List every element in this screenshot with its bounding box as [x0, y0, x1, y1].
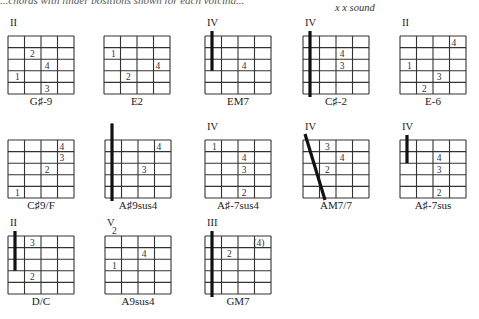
finger-number: 1: [407, 61, 412, 71]
chord-name: A9sus4: [121, 295, 155, 307]
fret-position-label: IV: [305, 121, 316, 132]
fretboard-grid: [303, 140, 369, 198]
finger-number: 1: [15, 72, 20, 82]
fret-position-label: IV: [402, 121, 413, 132]
finger-number: 2: [437, 188, 442, 198]
finger-number: 2: [242, 188, 247, 198]
finger-number: 4: [242, 61, 247, 71]
chord-diagram-board: II2413G♯-9142E2IV4EM7IV43C♯-2II4132E-643…: [0, 0, 479, 319]
finger-number: 1: [112, 261, 117, 271]
fretboard-grid: [8, 236, 74, 294]
chord-name: E-6: [425, 95, 441, 107]
chord-diagram: III(4)2GM7: [205, 217, 271, 307]
fretboard-grid: [303, 36, 369, 94]
finger-number: 4: [142, 249, 147, 259]
fret-position-label: II: [402, 17, 409, 28]
chord-diagram: II32D/C: [8, 217, 74, 307]
finger-number: (4): [253, 238, 264, 249]
finger-number: 4: [242, 153, 247, 163]
chord-name: G♯-9: [30, 95, 53, 107]
finger-number: 4: [340, 153, 345, 163]
chord-diagram: V241A9sus4: [105, 217, 171, 307]
chord-diagram: IV4EM7: [205, 17, 271, 107]
finger-number: 4: [45, 61, 50, 71]
finger-number: 3: [142, 165, 147, 175]
finger-number: 3: [30, 238, 35, 248]
finger-number: 2: [112, 226, 117, 236]
finger-number: 2: [126, 72, 131, 82]
fret-position-label: IV: [207, 17, 218, 28]
chord-name: A♯9sus4: [119, 199, 158, 211]
finger-number: 3: [242, 165, 247, 175]
finger-number: 2: [227, 249, 232, 259]
chord-diagram: 43A♯9sus4: [105, 123, 171, 211]
finger-number: 3: [340, 61, 345, 71]
chord-name: D/C: [32, 295, 50, 307]
finger-number: 3: [60, 153, 65, 163]
finger-number: 1: [111, 49, 116, 59]
fretboard-grid: [400, 140, 466, 198]
finger-number: 2: [45, 165, 50, 175]
finger-number: 4: [340, 49, 345, 59]
barre-line: [305, 134, 325, 200]
finger-number: 2: [422, 84, 427, 94]
chord-name: GM7: [226, 295, 250, 307]
finger-number: 3: [325, 142, 330, 152]
chord-diagram: IV342AM7/7: [303, 121, 369, 211]
chord-diagram: IV43C♯-2: [303, 17, 369, 107]
finger-number: 4: [60, 142, 65, 152]
chord-name: EM7: [227, 95, 250, 107]
chord-diagram: IV1432A♯-7sus4: [205, 121, 271, 211]
chord-name: E2: [131, 95, 143, 107]
chord-name: C♯-2: [325, 95, 347, 107]
chord-diagram: II4132E-6: [400, 17, 466, 107]
chord-diagram: IV432A♯-7sus: [400, 121, 466, 211]
finger-number: 2: [30, 49, 35, 59]
finger-number: 4: [452, 38, 457, 48]
finger-number: 2: [325, 165, 330, 175]
chord-name: AM7/7: [320, 199, 352, 211]
finger-number: 4: [157, 142, 162, 152]
chord-diagram: II2413G♯-9: [8, 17, 74, 107]
finger-number: 1: [212, 142, 217, 152]
chord-name: A♯-7sus: [415, 199, 452, 211]
fret-position-label: II: [10, 217, 17, 228]
fretboard-grid: [205, 36, 271, 94]
fret-position-label: III: [207, 217, 218, 228]
finger-number: 4: [437, 153, 442, 163]
fret-position-label: IV: [207, 121, 218, 132]
fretboard-grid: [8, 36, 74, 94]
finger-number: 2: [30, 272, 35, 282]
finger-number: 3: [45, 84, 50, 94]
finger-number: 4: [156, 61, 161, 71]
finger-number: 3: [437, 72, 442, 82]
chord-name: C♯9/F: [27, 199, 55, 211]
finger-number: 3: [437, 165, 442, 175]
chord-diagram: 4321C♯9/F: [8, 140, 74, 211]
chord-diagram: 142E2: [104, 36, 170, 107]
fret-position-label: II: [10, 17, 17, 28]
finger-number: 1: [15, 188, 20, 198]
fret-position-label: IV: [305, 17, 316, 28]
chord-name: A♯-7sus4: [217, 199, 260, 211]
